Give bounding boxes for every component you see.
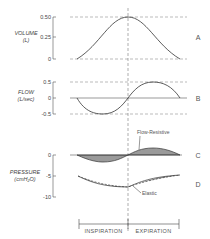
flow-label: FLOW (18, 89, 35, 95)
volume-tick-max: 0.50 (40, 14, 51, 20)
flow-tick-min: -0.5 (42, 111, 51, 117)
elastic-annotation: Elastic (142, 190, 157, 196)
volume-curve (77, 17, 180, 59)
expiration-label: EXPIRATION (136, 228, 172, 234)
pressure-unit: (cmH₂O) (14, 176, 36, 182)
volume-tick-mid: 0.25 (40, 34, 51, 40)
elastic-leader (133, 186, 141, 193)
flow-resistive-annotation: Flow-Resistive (137, 129, 170, 135)
flow-tick-zero: 0 (48, 95, 51, 101)
total-pressure-curve (78, 175, 180, 187)
volume-unit: (L) (23, 37, 30, 43)
pressure-tick-minus5: -5 (46, 173, 51, 179)
pressure-tick-minus10: -10 (43, 194, 51, 200)
volume-tick-zero: 0 (48, 56, 51, 62)
flow-tick-max: 0.5 (43, 79, 51, 85)
pressure-label: PRESSURE (10, 169, 41, 175)
flow-panel: 0.5 0 -0.5 FLOW (L/sec) B (18, 79, 201, 117)
pressure-tick-zero: 0 (48, 152, 51, 158)
inspiration-label: INSPIRATION (84, 228, 122, 234)
pressure-panel: Flow-Resistive Elastic 0 -5 -10 PRESSURE… (10, 129, 201, 200)
phase-bracket: INSPIRATION EXPIRATION (79, 219, 179, 234)
flow-resistive-leader (139, 136, 140, 150)
respiratory-mechanics-diagram: 0.50 0.25 0 VOLUME (L) A 0.5 0 -0.5 FLOW… (0, 0, 210, 239)
panel-letter-d: D (195, 181, 200, 188)
panel-letter-c: C (195, 152, 200, 159)
volume-label: VOLUME (14, 30, 38, 36)
volume-panel: 0.50 0.25 0 VOLUME (L) A (14, 14, 200, 62)
flow-unit: (L/sec) (18, 96, 35, 102)
panel-letter-a: A (196, 34, 201, 41)
panel-letter-b: B (196, 95, 201, 102)
